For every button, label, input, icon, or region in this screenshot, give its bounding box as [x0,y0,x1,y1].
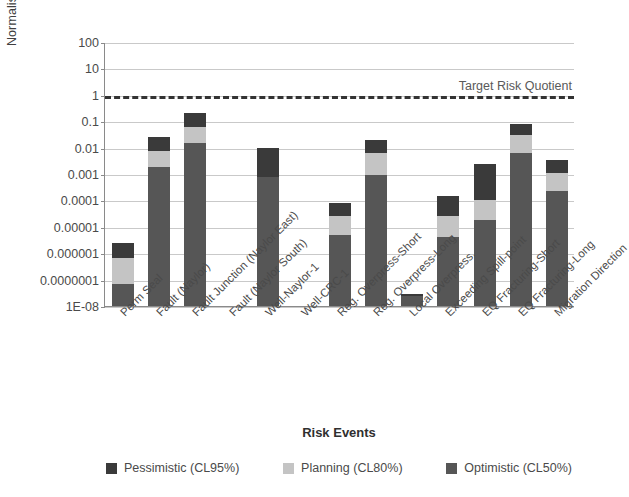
bar-segment [112,258,134,284]
x-axis-tick-labels: Perm SealFault (Naylor)Fault Junction (N… [104,310,574,415]
bar-slot [141,43,177,306]
bar-segment [329,203,351,216]
y-axis-tick-label: 100 [78,36,99,50]
legend-label: Optimistic (CL50%) [464,461,572,475]
y-axis-tick-label: 0.01 [75,142,99,156]
legend-label: Planning (CL80%) [301,461,402,475]
bar-segment [148,137,170,151]
y-axis-tick-label: 0.000001 [47,247,99,261]
bar-segment [184,127,206,143]
y-axis-tick-label: 0.0001 [61,194,99,208]
bar-segment [365,153,387,175]
bar-segment [257,148,279,177]
target-risk-quotient-line: Target Risk Quotient [105,96,574,99]
y-axis-tick-label: 0.001 [68,168,99,182]
legend-item[interactable]: Optimistic (CL50%) [446,461,572,475]
bar-segment [365,140,387,154]
bar-segment [474,164,496,201]
bar-segment [546,173,568,191]
target-risk-quotient-label: Target Risk Quotient [459,79,572,93]
legend-swatch-planning [283,463,294,474]
bar-segment [474,200,496,220]
y-axis-title: Normalised Risk Quotient [0,0,24,84]
y-axis-tick-label: 0.0000001 [40,274,99,288]
legend-swatch-pessimistic [106,463,117,474]
legend-item[interactable]: Planning (CL80%) [283,461,402,475]
bar-segment [510,135,532,153]
legend-label: Pessimistic (CL95%) [124,461,239,475]
bar-segment [112,243,134,258]
bar-segment [510,124,532,135]
x-axis-title: Risk Events [104,425,574,440]
bar-segment [184,113,206,127]
bar-segment [437,196,459,217]
y-axis-tick-label: 0.00001 [54,221,99,235]
y-axis-tick-label: 1 [92,89,99,103]
plot-area: 1001010.10.010.0010.00010.000010.0000010… [104,43,574,307]
bar-slot [105,43,141,306]
y-axis-tick-label: 10 [85,62,99,76]
bar-segment [148,151,170,167]
y-axis-tick-mark [101,307,105,308]
bar-segment [329,216,351,234]
legend-item[interactable]: Pessimistic (CL95%) [106,461,239,475]
chart-legend: Pessimistic (CL95%)Planning (CL80%)Optim… [104,458,574,478]
y-axis-tick-label: 0.1 [82,115,99,129]
bar-slot [322,43,358,306]
legend-swatch-optimistic [446,463,457,474]
bar-segment [546,160,568,173]
y-axis-tick-label: 1E-08 [66,300,99,314]
